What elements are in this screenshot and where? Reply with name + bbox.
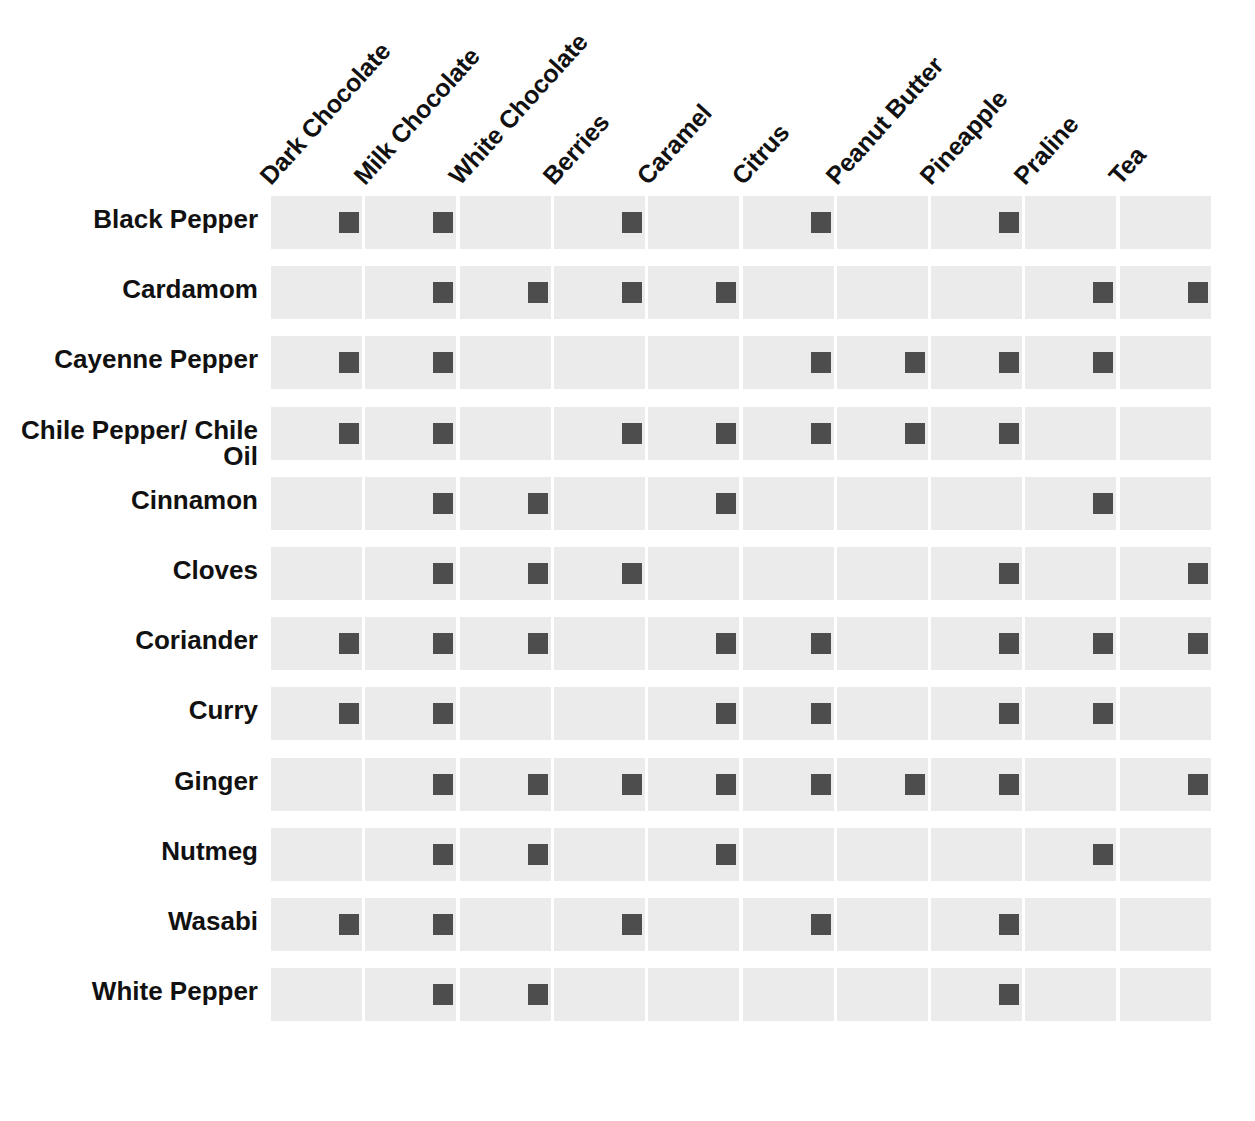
matrix-cell[interactable] [1025, 266, 1116, 319]
matrix-cell[interactable] [271, 336, 362, 389]
matrix-cell[interactable] [648, 828, 739, 881]
matrix-cell[interactable] [1025, 687, 1116, 740]
matrix-cell[interactable] [837, 898, 928, 951]
matrix-cell[interactable] [365, 196, 456, 249]
matrix-cell[interactable] [1120, 336, 1211, 389]
matrix-cell[interactable] [1120, 407, 1211, 460]
matrix-cell[interactable] [648, 407, 739, 460]
matrix-cell[interactable] [1025, 617, 1116, 670]
matrix-cell[interactable] [837, 758, 928, 811]
matrix-cell[interactable] [365, 687, 456, 740]
matrix-cell[interactable] [460, 968, 551, 1021]
matrix-cell[interactable] [271, 477, 362, 530]
matrix-cell[interactable] [460, 898, 551, 951]
matrix-cell[interactable] [1025, 477, 1116, 530]
matrix-cell[interactable] [648, 477, 739, 530]
matrix-cell[interactable] [554, 477, 645, 530]
matrix-cell[interactable] [648, 898, 739, 951]
matrix-cell[interactable] [1025, 898, 1116, 951]
matrix-cell[interactable] [271, 898, 362, 951]
matrix-cell[interactable] [1120, 898, 1211, 951]
matrix-cell[interactable] [271, 617, 362, 670]
matrix-cell[interactable] [271, 407, 362, 460]
matrix-cell[interactable] [554, 336, 645, 389]
matrix-cell[interactable] [931, 828, 1022, 881]
matrix-cell[interactable] [837, 196, 928, 249]
matrix-cell[interactable] [1025, 758, 1116, 811]
matrix-cell[interactable] [837, 547, 928, 600]
matrix-cell[interactable] [460, 266, 551, 319]
matrix-cell[interactable] [931, 968, 1022, 1021]
matrix-cell[interactable] [554, 687, 645, 740]
matrix-cell[interactable] [743, 266, 834, 319]
matrix-cell[interactable] [554, 266, 645, 319]
matrix-cell[interactable] [365, 547, 456, 600]
matrix-cell[interactable] [460, 547, 551, 600]
matrix-cell[interactable] [554, 968, 645, 1021]
matrix-cell[interactable] [931, 547, 1022, 600]
matrix-cell[interactable] [460, 407, 551, 460]
matrix-cell[interactable] [460, 758, 551, 811]
matrix-cell[interactable] [271, 828, 362, 881]
matrix-cell[interactable] [1120, 196, 1211, 249]
matrix-cell[interactable] [271, 758, 362, 811]
matrix-cell[interactable] [837, 477, 928, 530]
matrix-cell[interactable] [554, 828, 645, 881]
matrix-cell[interactable] [837, 617, 928, 670]
matrix-cell[interactable] [837, 687, 928, 740]
matrix-cell[interactable] [931, 617, 1022, 670]
matrix-cell[interactable] [837, 828, 928, 881]
matrix-cell[interactable] [365, 828, 456, 881]
matrix-cell[interactable] [648, 687, 739, 740]
matrix-cell[interactable] [837, 407, 928, 460]
matrix-cell[interactable] [460, 336, 551, 389]
matrix-cell[interactable] [460, 477, 551, 530]
matrix-cell[interactable] [365, 898, 456, 951]
matrix-cell[interactable] [554, 758, 645, 811]
matrix-cell[interactable] [1120, 477, 1211, 530]
matrix-cell[interactable] [1025, 196, 1116, 249]
matrix-cell[interactable] [931, 407, 1022, 460]
matrix-cell[interactable] [460, 617, 551, 670]
matrix-cell[interactable] [931, 336, 1022, 389]
matrix-cell[interactable] [837, 336, 928, 389]
matrix-cell[interactable] [931, 266, 1022, 319]
matrix-cell[interactable] [743, 968, 834, 1021]
matrix-cell[interactable] [837, 266, 928, 319]
matrix-cell[interactable] [1120, 547, 1211, 600]
matrix-cell[interactable] [1120, 758, 1211, 811]
matrix-cell[interactable] [648, 758, 739, 811]
matrix-cell[interactable] [1120, 266, 1211, 319]
matrix-cell[interactable] [743, 898, 834, 951]
matrix-cell[interactable] [743, 477, 834, 530]
matrix-cell[interactable] [743, 336, 834, 389]
matrix-cell[interactable] [554, 196, 645, 249]
matrix-cell[interactable] [743, 547, 834, 600]
matrix-cell[interactable] [743, 196, 834, 249]
matrix-cell[interactable] [554, 617, 645, 670]
matrix-cell[interactable] [1025, 828, 1116, 881]
matrix-cell[interactable] [365, 336, 456, 389]
matrix-cell[interactable] [1120, 968, 1211, 1021]
matrix-cell[interactable] [743, 407, 834, 460]
matrix-cell[interactable] [1120, 687, 1211, 740]
matrix-cell[interactable] [365, 407, 456, 460]
matrix-cell[interactable] [460, 196, 551, 249]
matrix-cell[interactable] [271, 547, 362, 600]
matrix-cell[interactable] [365, 477, 456, 530]
matrix-cell[interactable] [648, 266, 739, 319]
matrix-cell[interactable] [1025, 968, 1116, 1021]
matrix-cell[interactable] [554, 898, 645, 951]
matrix-cell[interactable] [1025, 407, 1116, 460]
matrix-cell[interactable] [271, 968, 362, 1021]
matrix-cell[interactable] [931, 477, 1022, 530]
matrix-cell[interactable] [365, 617, 456, 670]
matrix-cell[interactable] [743, 617, 834, 670]
matrix-cell[interactable] [648, 547, 739, 600]
matrix-cell[interactable] [648, 617, 739, 670]
matrix-cell[interactable] [365, 266, 456, 319]
matrix-cell[interactable] [743, 828, 834, 881]
matrix-cell[interactable] [365, 968, 456, 1021]
matrix-cell[interactable] [648, 336, 739, 389]
matrix-cell[interactable] [743, 758, 834, 811]
